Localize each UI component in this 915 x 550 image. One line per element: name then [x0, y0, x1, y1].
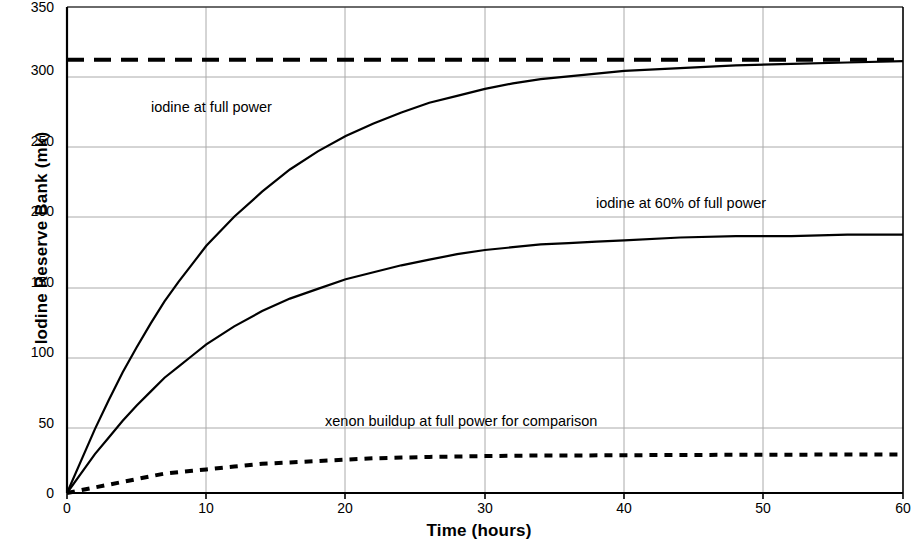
annotation-xenon-buildup: xenon buildup at full power for comparis… [325, 413, 597, 429]
annotation-iodine-60-percent: iodine at 60% of full power [596, 195, 766, 211]
annotation-iodine-full-power: iodine at full power [151, 99, 272, 115]
